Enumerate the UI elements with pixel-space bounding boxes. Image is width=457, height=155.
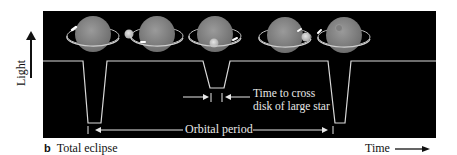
x-axis-arrow (395, 146, 430, 152)
star-system-4 (259, 17, 311, 53)
caption-text: Total eclipse (57, 141, 118, 155)
star-system-2 (125, 16, 184, 52)
star-system-5 (318, 17, 370, 53)
orbital-period-label: Orbital period (185, 122, 253, 136)
small-star-icon (336, 25, 343, 32)
star-system-3 (189, 16, 241, 52)
cross-time-label-line1: Time to cross (253, 86, 315, 100)
small-star-icon (125, 30, 134, 39)
figure-caption: bTotal eclipse (44, 141, 118, 155)
cross-time-markers (183, 93, 250, 102)
cross-time-label-line2: disk of large star (253, 99, 330, 113)
x-axis-label: Time (365, 141, 390, 155)
light-curve (43, 61, 436, 123)
small-star-icon (302, 33, 311, 42)
panel-letter: b (44, 142, 51, 154)
star-system-1 (67, 16, 119, 52)
y-axis-label: Light (14, 60, 29, 86)
